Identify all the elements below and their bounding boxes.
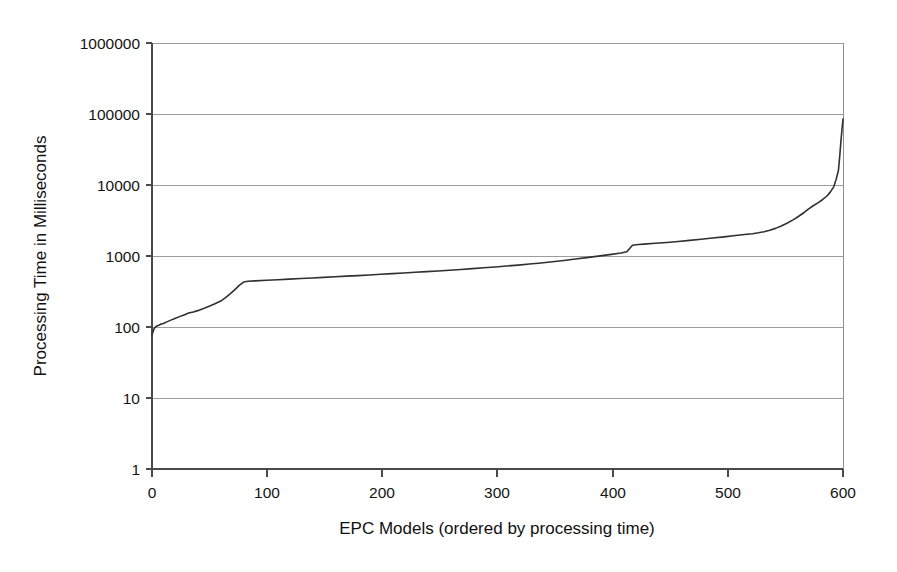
x-tick-label-600: 600 [830, 484, 856, 501]
x-tick-label-0: 0 [148, 484, 157, 501]
y-tick-label-10000: 10000 [97, 177, 140, 194]
x-tick-label-200: 200 [369, 484, 395, 501]
y-tick-label-1: 1 [131, 461, 140, 478]
y-tick-labels: 1000000 100000 10000 1000 100 10 1 [80, 35, 141, 478]
x-axis-title: EPC Models (ordered by processing time) [339, 519, 655, 538]
line-chart: 1000000 100000 10000 1000 100 10 1 0 100… [0, 0, 897, 572]
y-tick-marks [146, 43, 152, 469]
x-tick-label-300: 300 [484, 484, 510, 501]
x-tick-labels: 0 100 200 300 400 500 600 [148, 484, 857, 501]
x-tick-label-400: 400 [600, 484, 626, 501]
y-tick-label-1000: 1000 [106, 248, 141, 265]
chart-figure: 1000000 100000 10000 1000 100 10 1 0 100… [0, 0, 897, 572]
y-tick-label-100: 100 [114, 319, 140, 336]
y-tick-label-100000: 100000 [88, 106, 140, 123]
x-tick-label-500: 500 [715, 484, 741, 501]
y-axis-title: Processing Time in Milliseconds [31, 136, 50, 377]
x-tick-label-100: 100 [254, 484, 280, 501]
y-tick-label-1000000: 1000000 [80, 35, 141, 52]
x-tick-marks [152, 469, 843, 477]
y-tick-label-10: 10 [123, 390, 141, 407]
